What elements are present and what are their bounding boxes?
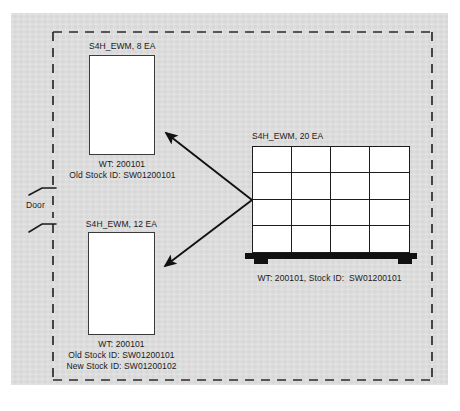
storage-box-bottom-new-stock-id: New Stock ID: SW01200102 (44, 361, 199, 372)
pallet-cell (370, 147, 409, 173)
pallet-cell (331, 226, 370, 252)
storage-box-top-old-stock-id: Old Stock ID: SW01200101 (45, 170, 200, 181)
pallet-caption: WT: 200101, Stock ID: SW01200101 (227, 273, 432, 284)
pallet-cell (331, 200, 370, 226)
pallet-foot-left (254, 259, 268, 264)
pallet-cell (253, 200, 292, 226)
arrow-to-box-top (166, 133, 252, 200)
pallet-cell (292, 226, 331, 252)
pallet-cell (292, 200, 331, 226)
storage-box-bottom-title: S4H_EWM, 12 EA (85, 219, 158, 230)
pallet-cell (331, 147, 370, 173)
arrow-to-box-bottom (165, 200, 252, 266)
pallet-cell (370, 173, 409, 199)
pallet-cell (253, 226, 292, 252)
pallet-cell (370, 200, 409, 226)
pallet-cell (253, 173, 292, 199)
pallet-foot-right (398, 259, 412, 264)
storage-box-top-title: S4H_EWM, 8 EA (89, 41, 155, 52)
door-label: Door (26, 200, 66, 211)
pallet-cell (253, 147, 292, 173)
storage-box-top-wt: WT: 200101 (89, 159, 155, 170)
pallet-stack (252, 146, 410, 253)
footer-caption (12, 399, 252, 411)
diagram-canvas: S4H_EWM, 8 EA WT: 200101 Old Stock ID: S… (0, 0, 460, 411)
pallet-cell (292, 173, 331, 199)
storage-box-top (89, 55, 155, 155)
pallet-title: S4H_EWM, 20 EA (252, 131, 410, 142)
storage-box-bottom (88, 232, 155, 335)
pallet-base (245, 253, 417, 259)
pallet-cell (331, 173, 370, 199)
flow-arrows (165, 133, 252, 266)
storage-box-bottom-wt: WT: 200101 (88, 339, 155, 350)
pallet-cell (292, 147, 331, 173)
pallet-cell (370, 226, 409, 252)
storage-box-bottom-old-stock-id: Old Stock ID: SW01200101 (44, 350, 199, 361)
